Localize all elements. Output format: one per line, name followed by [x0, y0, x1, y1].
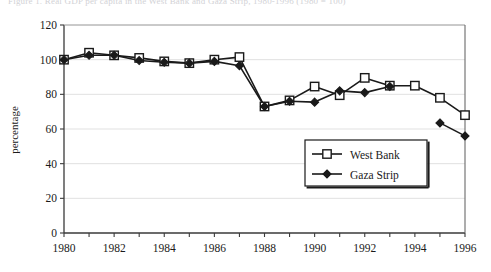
data-point-west-bank: [235, 53, 243, 61]
y-axis-label: percentage: [8, 106, 20, 154]
data-point-west-bank: [436, 94, 444, 102]
chart-legend: West BankGaza Strip: [305, 140, 429, 188]
legend-label-west-bank: West Bank: [350, 149, 400, 161]
data-point-west-bank: [411, 81, 419, 89]
data-point-gaza-strip: [311, 98, 319, 106]
x-tick-label: 1984: [153, 242, 176, 254]
data-point-gaza-strip: [361, 89, 369, 97]
y-tick-label: 100: [40, 54, 58, 66]
x-tick-label: 1994: [403, 242, 426, 254]
y-tick-label: 20: [46, 192, 58, 204]
x-tick-label: 1992: [353, 242, 376, 254]
y-tick-label: 80: [46, 88, 58, 100]
data-point-west-bank: [361, 74, 369, 82]
x-tick-label: 1990: [303, 242, 326, 254]
data-point-west-bank: [461, 111, 469, 119]
y-tick-label: 120: [40, 19, 58, 31]
y-tick-label: 60: [46, 123, 58, 135]
x-axis-tick-labels: 198019821984198619881990199219941996: [53, 242, 477, 254]
y-tick-label: 40: [46, 158, 58, 170]
data-point-west-bank: [310, 82, 318, 90]
data-point-gaza-strip: [461, 132, 469, 140]
y-axis-label-text: percentage: [8, 106, 20, 154]
x-tick-label: 1986: [203, 242, 226, 254]
x-tick-label: 1982: [103, 242, 126, 254]
y-axis-tick-labels: 020406080100120: [40, 19, 58, 239]
data-point-gaza-strip: [436, 119, 444, 127]
x-tick-label: 1988: [253, 242, 276, 254]
line-chart: 198019821984198619881990199219941996 020…: [0, 0, 491, 272]
data-point-west-bank: [323, 150, 331, 158]
legend-label-gaza-strip: Gaza Strip: [350, 169, 399, 182]
y-tick-label: 0: [51, 227, 57, 239]
x-tick-label: 1996: [454, 242, 477, 254]
x-tick-label: 1980: [53, 242, 76, 254]
chart-container: Figure 1. Real GDP per capita in the Wes…: [0, 0, 491, 272]
